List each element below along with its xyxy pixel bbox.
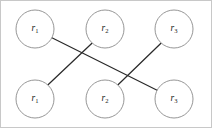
edge-top-r3-to-bottom-r2 — [118, 43, 161, 85]
node-bottom-r3: r3 — [155, 80, 193, 118]
node-top-r1: r1 — [16, 10, 54, 48]
figure-canvas: r1 r2 r3 r1 r2 r3 — [0, 0, 212, 128]
bipartite-graph-diagram: r1 r2 r3 r1 r2 r3 — [0, 0, 212, 128]
edge-top-r2-to-bottom-r1 — [48, 43, 92, 85]
node-bottom-r2: r2 — [86, 80, 124, 118]
node-top-r2: r2 — [86, 10, 124, 48]
node-top-r3: r3 — [155, 10, 193, 48]
node-bottom-r1: r1 — [16, 80, 54, 118]
